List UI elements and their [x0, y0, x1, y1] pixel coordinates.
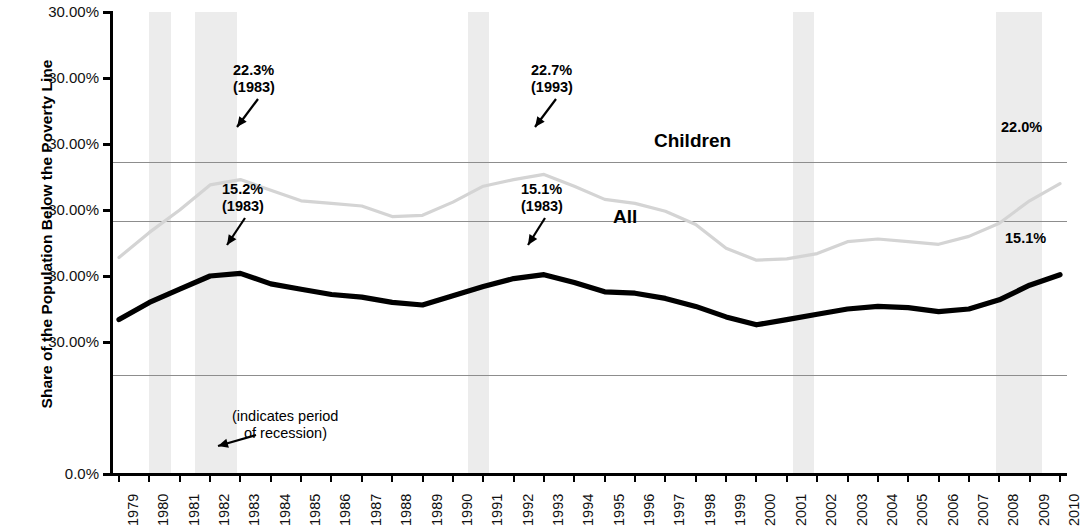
x-axis-tick	[179, 474, 181, 482]
x-axis-tick	[938, 474, 940, 482]
recession-band	[149, 12, 170, 474]
y-axis-tick	[103, 77, 111, 80]
all-series-label: All	[613, 206, 637, 228]
annotation-all-peak-1983: 15.2% (1983)	[222, 181, 264, 215]
x-axis-tick	[361, 474, 363, 482]
x-axis-tick	[239, 474, 241, 482]
x-axis-tick	[604, 474, 606, 482]
x-axis-tick	[391, 474, 393, 482]
x-axis-label: 2001	[793, 494, 809, 526]
x-axis-tick	[725, 474, 727, 482]
y-axis-label: 30.00%	[13, 4, 99, 19]
y-axis-tick	[103, 143, 111, 146]
children-series-label: Children	[654, 130, 731, 152]
x-axis-tick	[998, 474, 1000, 482]
x-axis-tick	[513, 474, 515, 482]
annotation-children-peak-1993: 22.7% (1993)	[531, 62, 573, 96]
x-axis-tick	[573, 474, 575, 482]
poverty-line-chart: Share of the Population Below the Povert…	[0, 0, 1081, 527]
x-axis-label: 1998	[702, 494, 718, 526]
y-axis-tick	[103, 209, 111, 212]
annotation-year: (1983)	[521, 198, 563, 214]
x-axis-tick	[816, 474, 818, 482]
annotation-value: 15.2%	[222, 181, 263, 197]
x-axis-label: 1980	[155, 494, 171, 526]
annotation-value: 22.3%	[233, 62, 274, 78]
y-axis-line	[110, 11, 113, 475]
x-axis-label: 1995	[611, 494, 627, 526]
x-axis-label: 1989	[429, 494, 445, 526]
x-axis-label: 2006	[945, 494, 961, 526]
x-axis-label: 1984	[277, 494, 293, 526]
x-axis-tick	[300, 474, 302, 482]
x-axis-tick	[452, 474, 454, 482]
annotation-children-peak-1983: 22.3% (1983)	[233, 62, 275, 96]
y-axis-label: 30.00%	[13, 70, 99, 85]
recession-note-line2: of recession)	[232, 425, 327, 442]
x-axis-label: 1987	[368, 494, 384, 526]
x-axis-label: 1991	[489, 494, 505, 526]
x-axis-tick	[270, 474, 272, 482]
x-axis-tick	[482, 474, 484, 482]
x-axis-label: 1992	[520, 494, 536, 526]
annotation-year: (1993)	[531, 79, 573, 95]
x-axis-label: 1996	[641, 494, 657, 526]
x-axis-label: 1990	[459, 494, 475, 526]
x-axis-label: 1983	[246, 494, 262, 526]
recession-band	[468, 12, 489, 474]
x-axis-tick	[786, 474, 788, 482]
x-axis-tick	[209, 474, 211, 482]
y-axis-tick	[103, 275, 111, 278]
y-axis-tick	[103, 11, 111, 14]
y-axis-label: 0.0%	[13, 466, 99, 481]
x-axis-label: 1985	[307, 494, 323, 526]
x-axis-tick	[664, 474, 666, 482]
x-axis-label: 2004	[884, 494, 900, 526]
y-axis-tick	[103, 473, 111, 476]
gridline	[112, 221, 1067, 222]
x-axis-line	[110, 473, 1067, 476]
x-axis-tick	[422, 474, 424, 482]
x-axis-tick	[148, 474, 150, 482]
x-axis-label: 2008	[1005, 494, 1021, 526]
x-axis-label: 1986	[337, 494, 353, 526]
x-axis-tick	[907, 474, 909, 482]
x-axis-tick	[543, 474, 545, 482]
x-axis-tick	[877, 474, 879, 482]
children-end-label: 22.0%	[1001, 119, 1042, 135]
x-axis-tick	[118, 474, 120, 482]
annotation-value: 15.1%	[521, 181, 562, 197]
x-axis-label: 2010	[1066, 494, 1081, 526]
y-axis-label: 30.00%	[13, 136, 99, 151]
x-axis-label: 2005	[914, 494, 930, 526]
x-axis-label: 2003	[854, 494, 870, 526]
annotation-year: (1983)	[222, 198, 264, 214]
y-axis-tick	[103, 341, 111, 344]
x-axis-tick	[1029, 474, 1031, 482]
x-axis-label: 1981	[186, 494, 202, 526]
x-axis-label: 2009	[1036, 494, 1052, 526]
x-axis-tick	[755, 474, 757, 482]
y-axis-label: 30.00%	[13, 334, 99, 349]
x-axis-label: 1994	[580, 494, 596, 526]
all-end-label: 15.1%	[1005, 230, 1046, 246]
x-axis-label: 2000	[762, 494, 778, 526]
x-axis-tick	[1059, 474, 1061, 482]
x-axis-label: 1993	[550, 494, 566, 526]
x-axis-label: 1988	[398, 494, 414, 526]
x-axis-label: 1979	[125, 494, 141, 526]
annotation-value: 22.7%	[531, 62, 572, 78]
recession-note: (indicates period of recession)	[232, 408, 338, 442]
x-axis-tick	[968, 474, 970, 482]
recession-band	[195, 12, 237, 474]
annotation-year: (1983)	[233, 79, 275, 95]
y-axis-label: 30.00%	[13, 268, 99, 283]
gridline	[112, 162, 1067, 163]
x-axis-label: 2002	[823, 494, 839, 526]
x-axis-label: 1999	[732, 494, 748, 526]
annotation-all-peak-1993: 15.1% (1983)	[521, 181, 563, 215]
x-axis-label: 1982	[216, 494, 232, 526]
x-axis-label: 2007	[975, 494, 991, 526]
x-axis-tick	[847, 474, 849, 482]
gridline	[112, 375, 1067, 376]
